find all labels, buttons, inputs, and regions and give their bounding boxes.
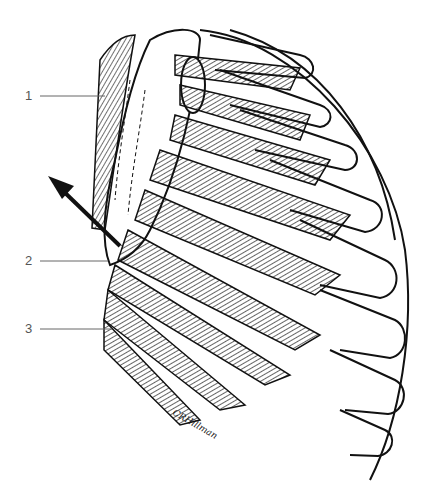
label-2: 2 bbox=[25, 254, 32, 267]
label-1: 3 bbox=[25, 322, 32, 335]
anatomical-illustration bbox=[0, 0, 436, 500]
label-3: 1 bbox=[25, 89, 32, 102]
